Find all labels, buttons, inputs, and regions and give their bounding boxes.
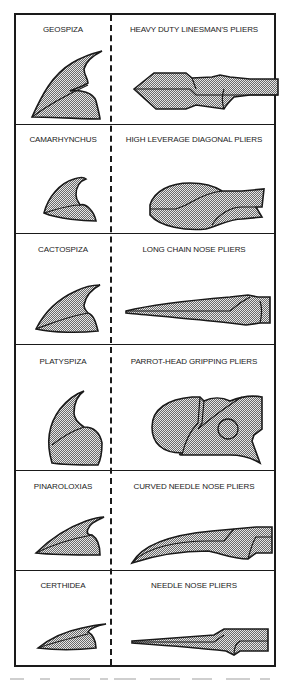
certhidea-beak-icon xyxy=(34,620,110,652)
row-divider xyxy=(16,570,274,571)
long-chain-nose-pliers-icon xyxy=(122,293,272,327)
camarhynchus-beak-icon xyxy=(38,175,102,225)
bird-label-camarhynchus: CAMARHYNCHUS xyxy=(16,135,110,144)
bird-label-geospiza: GEOSPIZA xyxy=(16,25,110,34)
tool-label-needle-nose-pliers: NEEDLE NOSE PLIERS xyxy=(112,581,276,590)
platyspiza-beak-icon xyxy=(38,387,108,467)
cactospiza-beak-icon xyxy=(30,283,106,335)
diagonal-pliers-icon xyxy=(146,181,266,231)
row-divider xyxy=(16,124,274,125)
linesman-pliers-icon xyxy=(130,65,280,115)
tool-label-linesman-pliers: HEAVY DUTY LINESMAN'S PLIERS xyxy=(112,25,276,34)
bird-label-cactospiza: CACTOSPIZA xyxy=(16,245,110,254)
pinaroloxias-beak-icon xyxy=(30,513,110,559)
curved-needle-nose-pliers-icon xyxy=(128,523,274,569)
bird-label-certhidea: CERTHIDEA xyxy=(16,581,110,590)
bird-label-platyspiza: PLATYSPIZA xyxy=(16,357,110,366)
row-divider xyxy=(16,233,274,234)
tool-label-diagonal-pliers: HIGH LEVERAGE DIAGONAL PLIERS xyxy=(112,135,276,144)
parrot-head-pliers-icon xyxy=(142,393,278,473)
faded-caption-remnant xyxy=(10,676,277,682)
tool-label-curved-needle-nose-pliers: CURVED NEEDLE NOSE PLIERS xyxy=(112,482,276,491)
bird-label-pinaroloxias: PINAROLOXIAS xyxy=(16,482,110,491)
tool-label-long-chain-nose-pliers: LONG CHAIN NOSE PLIERS xyxy=(112,245,276,254)
comparison-table-frame: GEOSPIZA HEAVY DUTY LINESMAN'S PLIERS CA… xyxy=(14,13,276,667)
row-divider xyxy=(16,344,274,345)
tool-label-parrot-head-pliers: PARROT-HEAD GRIPPING PLIERS xyxy=(112,357,276,366)
needle-nose-pliers-icon xyxy=(130,627,270,657)
geospiza-beak-icon xyxy=(24,45,108,120)
dashed-column-divider xyxy=(110,15,112,665)
